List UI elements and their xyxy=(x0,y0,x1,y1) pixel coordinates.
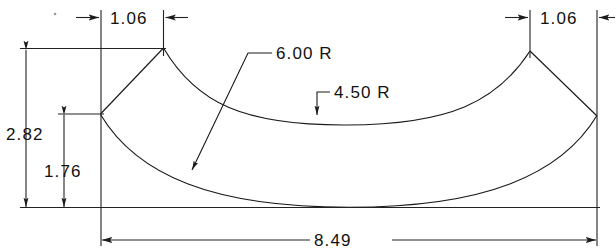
leader-path-6p00R xyxy=(192,53,272,170)
engineering-drawing-canvas: 1.06 1.06 2.82 1.76 8.49 6.00 R xyxy=(0,0,616,251)
part-edge-upper-left xyxy=(101,48,164,114)
drawing-svg: 1.06 1.06 2.82 1.76 8.49 6.00 R xyxy=(0,0,616,251)
dim-label-2p82: 2.82 xyxy=(6,125,44,144)
dimension-width-8p49: 8.49 xyxy=(102,231,596,250)
dim-label-top-left-1p06: 1.06 xyxy=(110,9,148,28)
dim-label-8p49: 8.49 xyxy=(314,231,352,250)
radius-label-6p00R: 6.00 R xyxy=(276,44,333,63)
dimension-height-2p82: 2.82 xyxy=(6,50,44,207)
dim-label-1p76: 1.76 xyxy=(44,162,82,181)
radius-leader-4p50R: 4.50 R xyxy=(317,83,391,115)
dim-label-top-right-1p06: 1.06 xyxy=(540,9,578,28)
part-arc-outer-6p00R xyxy=(101,115,598,208)
radius-label-4p50R: 4.50 R xyxy=(334,83,391,102)
scan-speck xyxy=(54,13,57,16)
dimension-top-right-1p06: 1.06 xyxy=(505,9,615,28)
part-edge-upper-right xyxy=(530,51,597,116)
part-outline-group xyxy=(101,48,598,207)
leader-path-4p50R xyxy=(317,92,330,115)
dimension-height-1p76: 1.76 xyxy=(44,115,82,207)
dimension-top-left-1p06: 1.06 xyxy=(76,9,188,28)
radius-leader-6p00R: 6.00 R xyxy=(192,44,333,170)
